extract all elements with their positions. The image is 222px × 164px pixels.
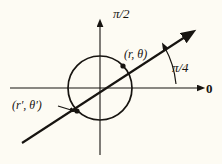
- horizontal-axis-label: 0: [206, 82, 213, 95]
- point-alternate-label: (r′, θ′): [12, 99, 42, 111]
- point-primary-label: (r, θ): [124, 48, 147, 60]
- polar-coordinate-diagram: π/2 0 π/4 (r, θ) (r′, θ′): [0, 0, 222, 164]
- point-primary-marker: [120, 63, 125, 68]
- diagram-canvas: [0, 0, 222, 164]
- point-alternate-marker: [74, 108, 79, 113]
- alternate-point-leader: [58, 106, 71, 110]
- angle-label: π/4: [172, 61, 189, 74]
- vertical-axis-label: π/2: [113, 7, 130, 20]
- polar-ray: [22, 37, 185, 143]
